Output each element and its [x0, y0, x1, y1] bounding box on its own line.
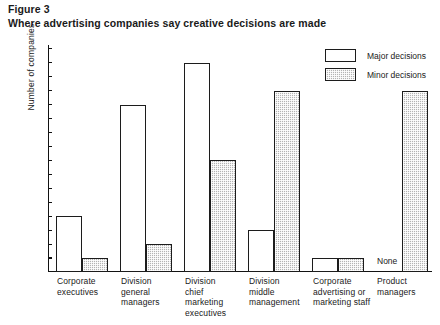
bar-minor-1 — [82, 258, 108, 272]
x-category-label-line: executives — [185, 308, 226, 319]
bar-major-1 — [56, 216, 82, 272]
x-category-label-1: Corporateexecutives — [57, 276, 98, 297]
y-tick-mark — [48, 257, 52, 258]
y-tick-mark — [48, 104, 52, 105]
x-category-label-line: managers — [377, 287, 416, 298]
bar-minor-2 — [146, 244, 172, 272]
x-category-label-4: Divisionmiddlemanagement — [249, 276, 300, 308]
y-tick-mark — [48, 90, 52, 91]
figure-3-chart: Figure 3 Where advertising companies say… — [0, 0, 440, 325]
bar-minor-6 — [402, 91, 428, 272]
bar-minor-5 — [338, 258, 364, 272]
y-tick-mark — [48, 174, 52, 175]
figure-number: Figure 3 — [8, 3, 432, 16]
y-tick-mark — [48, 188, 52, 189]
x-category-label-line: Corporate — [57, 276, 98, 287]
x-category-label-line: general — [121, 287, 160, 298]
x-category-label-line: Division — [185, 276, 226, 287]
x-category-label-line: Corporate — [313, 276, 370, 287]
plot-frame — [48, 45, 432, 272]
bar-major-4 — [248, 230, 274, 272]
bar-minor-3 — [210, 160, 236, 272]
x-category-label-line: advertising or — [313, 287, 370, 298]
x-category-label-6: Productmanagers — [377, 276, 416, 297]
y-tick-mark — [48, 132, 52, 133]
figure-title: Where advertising companies say creative… — [8, 16, 432, 30]
y-tick-mark — [48, 230, 52, 231]
y-tick-mark — [48, 118, 52, 119]
bar-annotation-none: None — [377, 256, 397, 266]
y-tick-mark — [48, 146, 52, 147]
figure-header: Figure 3 Where advertising companies say… — [8, 3, 432, 30]
x-category-label-line: managers — [121, 297, 160, 308]
bar-major-3 — [184, 63, 210, 272]
x-category-label-line: executives — [57, 287, 98, 298]
y-tick-mark — [48, 202, 52, 203]
bar-major-5 — [312, 258, 338, 272]
x-category-label-3: Divisionchiefmarketingexecutives — [185, 276, 226, 318]
y-axis-title: Number of companies — [26, 0, 36, 142]
x-category-label-line: marketing — [185, 297, 226, 308]
bar-minor-4 — [274, 91, 300, 272]
y-tick-mark — [48, 160, 52, 161]
y-tick-mark — [48, 62, 52, 63]
y-tick-mark — [48, 244, 52, 245]
x-category-label-line: marketing staff — [313, 297, 370, 308]
x-category-label-2: Divisiongeneralmanagers — [121, 276, 160, 308]
y-tick-mark — [48, 216, 52, 217]
x-category-label-line: middle — [249, 287, 300, 298]
x-category-label-line: chief — [185, 287, 226, 298]
x-category-label-line: management — [249, 297, 300, 308]
x-category-label-line: Division — [121, 276, 160, 287]
x-category-label-line: Product — [377, 276, 416, 287]
y-tick-mark — [48, 48, 52, 49]
x-category-label-line: Division — [249, 276, 300, 287]
x-category-label-5: Corporateadvertising ormarketing staff — [313, 276, 370, 308]
bar-major-2 — [120, 105, 146, 272]
y-tick-mark — [48, 76, 52, 77]
